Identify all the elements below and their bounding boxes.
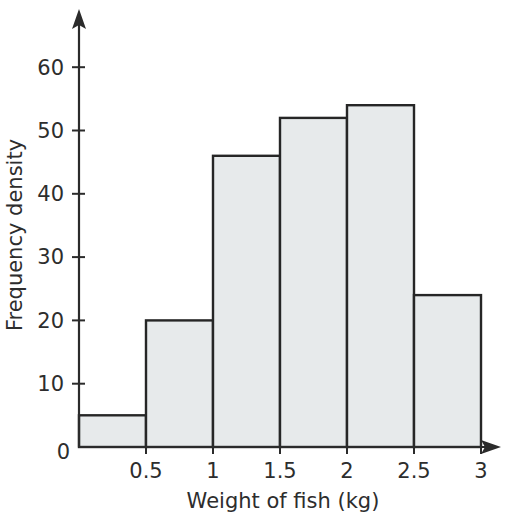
origin-label: 0 xyxy=(57,440,70,464)
y-tick-label-50: 50 xyxy=(37,119,64,143)
y-tick-label-40: 40 xyxy=(37,182,64,206)
y-tick-label-30: 30 xyxy=(37,245,64,269)
bar-0.5-1 xyxy=(146,320,213,447)
x-tick-label-0.5: 0.5 xyxy=(129,459,162,483)
x-axis-title: Weight of fish (kg) xyxy=(187,489,380,513)
bar-2.5-3 xyxy=(414,295,481,447)
histogram-plot: 10 20 30 40 50 60 0 0.5 1 1.5 2 2.5 3 xyxy=(0,0,506,517)
bar-1-1.5 xyxy=(213,156,280,447)
y-tick-label-10: 10 xyxy=(37,372,64,396)
x-tick-label-1.5: 1.5 xyxy=(263,459,296,483)
x-axis-tick-labels: 0.5 1 1.5 2 2.5 3 xyxy=(129,459,487,483)
x-tick-label-1: 1 xyxy=(206,459,219,483)
x-tick-label-3: 3 xyxy=(474,459,487,483)
y-tick-label-60: 60 xyxy=(37,56,64,80)
y-axis xyxy=(72,9,86,447)
bar-0-0.5 xyxy=(79,415,146,447)
bar-1.5-2 xyxy=(280,118,347,447)
y-axis-title: Frequency density xyxy=(3,139,27,331)
x-tick-label-2: 2 xyxy=(340,459,353,483)
histogram-chart: 10 20 30 40 50 60 0 0.5 1 1.5 2 2.5 3 xyxy=(0,0,506,517)
bar-2-2.5 xyxy=(347,105,414,447)
y-axis-tick-labels: 10 20 30 40 50 60 xyxy=(37,56,64,397)
bars-group xyxy=(79,105,481,447)
x-tick-label-2.5: 2.5 xyxy=(397,459,430,483)
y-tick-label-20: 20 xyxy=(37,309,64,333)
